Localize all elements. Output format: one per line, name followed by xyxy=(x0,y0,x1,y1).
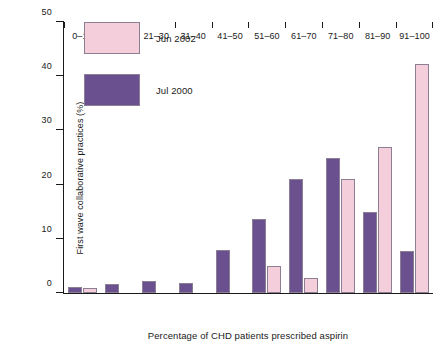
x-axis-category-label: 31–40 xyxy=(180,31,206,356)
x-axis-tick xyxy=(396,22,397,28)
y-axis-tick: 0 xyxy=(56,292,63,293)
legend-label: Jul 2000 xyxy=(156,85,193,96)
x-axis-tick xyxy=(285,22,286,28)
x-axis-title: Percentage of CHD patients prescribed as… xyxy=(63,330,433,341)
y-axis-tick-label: 20 xyxy=(42,170,52,180)
x-axis-tick xyxy=(64,22,65,28)
y-axis-tick-label: 30 xyxy=(42,115,52,125)
y-axis-tick: 20 xyxy=(56,184,63,185)
x-axis-tick xyxy=(432,22,433,28)
y-axis-title-container: First wave collaborative practices (%) xyxy=(0,0,22,356)
y-axis-tick: 10 xyxy=(56,238,63,239)
x-axis-category-label: 41–50 xyxy=(217,31,243,356)
legend-swatch xyxy=(84,22,140,54)
x-axis-category-label: 51–60 xyxy=(254,31,280,356)
x-axis-category-label: 21–30 xyxy=(143,31,169,356)
legend-label: Jun 2002 xyxy=(156,33,196,44)
x-axis-tick xyxy=(322,22,323,28)
bar-chart: First wave collaborative practices (%) 0… xyxy=(0,0,437,356)
y-axis-tick-label: 0 xyxy=(47,278,52,288)
x-axis-tick xyxy=(359,22,360,28)
legend-swatch xyxy=(84,74,140,106)
x-axis-tick xyxy=(175,22,176,28)
x-axis-tick xyxy=(248,22,249,28)
x-axis-category-label: 91–100 xyxy=(399,31,430,356)
y-axis-tick-label: 10 xyxy=(42,224,52,234)
plot-area: 010203040500–1011–2021–3031–4041–5051–60… xyxy=(63,22,432,293)
x-axis-category-label: 81–90 xyxy=(365,31,391,356)
x-axis-category-label: 71–80 xyxy=(328,31,354,356)
x-axis-category-label: 61–70 xyxy=(291,31,317,356)
y-axis-tick-label: 50 xyxy=(42,7,52,17)
y-axis-tick: 30 xyxy=(56,129,63,130)
x-axis-tick xyxy=(212,22,213,28)
y-axis-tick: 40 xyxy=(56,75,63,76)
y-axis-tick-label: 40 xyxy=(42,61,52,71)
y-axis-tick: 50 xyxy=(56,21,63,22)
